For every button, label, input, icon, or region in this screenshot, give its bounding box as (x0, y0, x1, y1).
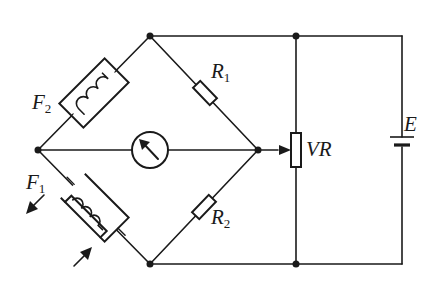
label-f1: F1 (26, 172, 45, 195)
label-e: E (404, 114, 417, 135)
circuit-schematic (0, 0, 438, 287)
label-vr: VR (306, 139, 332, 160)
resistor-r1-icon (193, 81, 217, 105)
label-r2: R2 (211, 207, 230, 230)
battery-e-icon (390, 137, 414, 145)
circuit-diagram: F2 F1 R1 R2 VR E (0, 0, 438, 287)
label-r1: R1 (211, 61, 230, 84)
variable-resistor-vr-icon (291, 133, 301, 167)
force-arrow-out-icon (26, 195, 44, 214)
label-f2: F2 (32, 92, 51, 115)
galvanometer-icon (132, 132, 168, 168)
vr-wiper-arrow-icon (279, 145, 291, 155)
force-arrow-in-icon (74, 247, 92, 266)
